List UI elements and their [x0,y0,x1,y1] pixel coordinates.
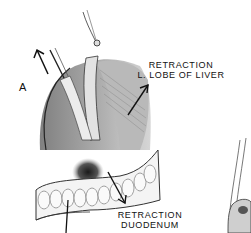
label-retraction-liver: RETRACTION L. LOBE OF LIVER [135,60,227,80]
instrument [50,50,64,78]
panel-label: A [19,82,26,92]
label-retraction-duodenum: RETRACTION DUODENUM [112,210,188,230]
label-liver-line1: RETRACTION [135,60,227,70]
illustration-drawing [0,0,251,233]
label-duodenum-line2: DUODENUM [112,220,188,230]
surgical-illustration: A RETRACTION L. LOBE OF LIVER RETRACTION… [0,0,251,233]
label-duodenum-line1: RETRACTION [112,210,188,220]
arrow-upper-left-icon [34,50,48,74]
label-liver-line2: L. LOBE OF LIVER [135,70,227,80]
adjacent-figure-fragment [228,138,251,233]
